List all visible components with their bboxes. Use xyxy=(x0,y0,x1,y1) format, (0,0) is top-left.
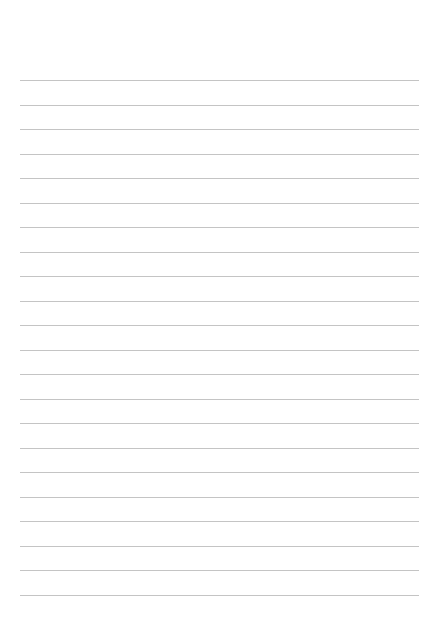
ruled-line xyxy=(20,154,419,155)
ruled-line xyxy=(20,129,419,130)
ruled-line xyxy=(20,203,419,204)
ruled-line xyxy=(20,178,419,179)
ruled-line xyxy=(20,595,419,596)
ruled-line xyxy=(20,448,419,449)
ruled-line xyxy=(20,472,419,473)
ruled-line xyxy=(20,80,419,81)
ruled-line xyxy=(20,570,419,571)
ruled-line xyxy=(20,546,419,547)
lined-paper-page xyxy=(0,0,439,628)
writing-area[interactable] xyxy=(20,60,419,600)
ruled-line xyxy=(20,374,419,375)
ruled-line xyxy=(20,423,419,424)
ruled-line xyxy=(20,325,419,326)
ruled-line xyxy=(20,252,419,253)
ruled-line xyxy=(20,276,419,277)
ruled-line xyxy=(20,105,419,106)
ruled-line xyxy=(20,497,419,498)
ruled-line xyxy=(20,227,419,228)
ruled-line xyxy=(20,301,419,302)
ruled-line xyxy=(20,399,419,400)
ruled-line xyxy=(20,521,419,522)
ruled-line xyxy=(20,350,419,351)
